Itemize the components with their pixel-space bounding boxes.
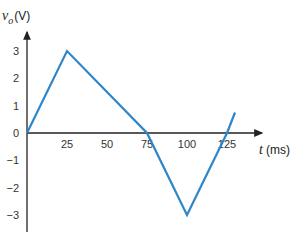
y-tick-label: 1 [13,100,19,112]
y-tick-label: −1 [6,154,19,166]
y-tick-label: 3 [13,45,19,57]
y-tick-label: −2 [6,182,19,194]
y-axis-label: vo(V) [2,8,30,26]
x-tick-label: 25 [61,138,73,150]
y-tick-labels: 3210−1−2−3 [6,45,19,221]
y-tick-label: −3 [6,209,19,221]
x-tick-labels: 255075100125 [61,138,236,150]
x-tick-label: 50 [101,138,113,150]
y-tick-label: 2 [13,72,19,84]
x-axis-label: t(ms) [259,142,290,157]
y-tick-label: 0 [13,127,19,139]
line-chart: vo(V) t(ms) 3210−1−2−3 255075100125 [0,0,299,240]
x-tick-label: 100 [178,138,196,150]
